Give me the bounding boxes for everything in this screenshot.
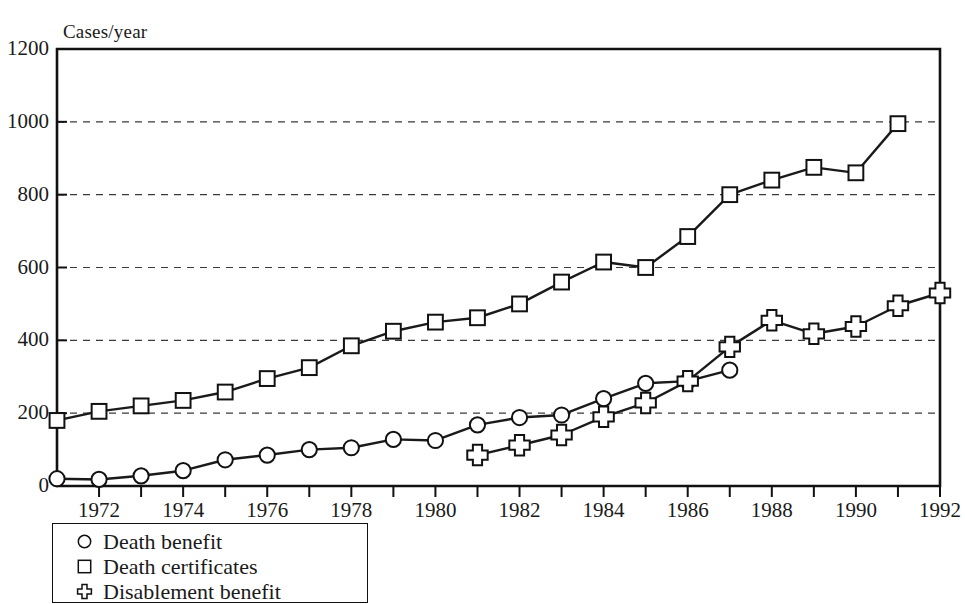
x-tick-label-1986: 1986: [648, 500, 728, 521]
data-point-death-certificates-19: [849, 165, 864, 180]
data-point-death-certificates-7: [344, 338, 359, 353]
data-point-disablement-benefit-2: [551, 425, 571, 445]
y-tick-label-600: 600: [18, 257, 50, 278]
data-point-death-benefit-2: [133, 468, 148, 483]
data-point-death-certificates-6: [302, 360, 317, 375]
data-point-death-certificates-5: [260, 371, 275, 386]
data-point-death-benefit-7: [344, 440, 359, 455]
data-point-death-certificates-15: [680, 229, 695, 244]
series-line-disablement-benefit: [477, 293, 940, 455]
x-tick-label-1988: 1988: [732, 500, 812, 521]
legend-label-disablement-benefit: Disablement benefit: [103, 581, 281, 603]
data-point-death-certificates-10: [470, 310, 485, 325]
data-point-death-certificates-20: [891, 116, 906, 131]
y-tick-label-1200: 1200: [7, 38, 49, 59]
data-point-death-benefit-0: [49, 471, 64, 486]
data-point-death-benefit-1: [91, 472, 106, 487]
data-point-disablement-benefit-9: [846, 316, 866, 336]
data-point-death-certificates-0: [50, 413, 65, 428]
y-tick-label-800: 800: [18, 184, 50, 205]
x-tick-label-1984: 1984: [564, 500, 644, 521]
data-point-disablement-benefit-7: [762, 310, 782, 330]
data-point-death-benefit-11: [512, 410, 527, 425]
data-point-death-certificates-8: [386, 324, 401, 339]
legend: Death benefit Death certificates Disable…: [52, 523, 368, 603]
data-point-disablement-benefit-10: [888, 296, 908, 316]
circle-marker-icon: [71, 532, 97, 552]
data-point-death-benefit-13: [596, 391, 611, 406]
y-tick-label-200: 200: [18, 402, 50, 423]
data-point-death-certificates-12: [554, 275, 569, 290]
data-point-death-certificates-11: [512, 297, 527, 312]
x-tick-label-1974: 1974: [143, 500, 223, 521]
cross-marker-icon: [71, 582, 97, 602]
y-tick-label-0: 0: [39, 475, 50, 496]
data-point-death-certificates-14: [638, 260, 653, 275]
data-point-disablement-benefit-3: [593, 407, 613, 427]
x-tick-label-1978: 1978: [311, 500, 391, 521]
legend-label-death-benefit: Death benefit: [103, 531, 222, 553]
data-point-death-certificates-4: [218, 385, 233, 400]
data-point-disablement-benefit-1: [509, 435, 529, 455]
x-tick-label-1992: 1992: [900, 500, 965, 521]
legend-item-death-benefit: Death benefit: [71, 529, 367, 554]
data-point-death-certificates-2: [134, 398, 149, 413]
data-point-death-benefit-8: [386, 432, 401, 447]
data-point-death-certificates-17: [764, 173, 779, 188]
data-point-disablement-benefit-0: [467, 445, 487, 465]
y-tick-label-1000: 1000: [7, 111, 49, 132]
x-tick-label-1982: 1982: [480, 500, 560, 521]
data-point-death-certificates-13: [596, 255, 611, 270]
legend-item-disablement-benefit: Disablement benefit: [71, 579, 367, 604]
data-point-death-benefit-4: [218, 452, 233, 467]
x-tick-label-1976: 1976: [227, 500, 307, 521]
data-point-death-benefit-5: [260, 447, 275, 462]
data-point-death-certificates-16: [722, 187, 737, 202]
data-point-death-benefit-12: [554, 407, 569, 422]
square-marker-icon: [71, 557, 97, 577]
x-tick-label-1972: 1972: [59, 500, 139, 521]
data-point-death-certificates-3: [176, 393, 191, 408]
legend-label-death-certificates: Death certificates: [103, 556, 258, 578]
data-point-death-benefit-16: [722, 363, 737, 378]
data-point-death-benefit-6: [302, 442, 317, 457]
series-line-death-certificates: [57, 124, 898, 421]
data-point-death-benefit-14: [638, 376, 653, 391]
data-point-death-benefit-10: [470, 417, 485, 432]
data-point-death-certificates-18: [806, 160, 821, 175]
data-point-death-certificates-9: [428, 315, 443, 330]
data-point-death-benefit-3: [176, 463, 191, 478]
x-tick-label-1980: 1980: [395, 500, 475, 521]
data-point-disablement-benefit-4: [635, 393, 655, 413]
x-tick-label-1990: 1990: [816, 500, 896, 521]
data-point-death-benefit-9: [428, 433, 443, 448]
legend-item-death-certificates: Death certificates: [71, 554, 367, 579]
data-point-death-certificates-1: [92, 404, 107, 419]
data-point-disablement-benefit-11: [930, 283, 950, 303]
y-tick-label-400: 400: [18, 329, 50, 350]
data-point-disablement-benefit-8: [804, 324, 824, 344]
series-line-death-benefit: [57, 370, 730, 479]
